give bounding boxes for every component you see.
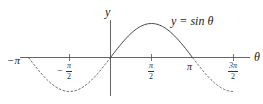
tick-label-neg-pi: −π [7, 55, 20, 66]
x-axis-label: θ [254, 51, 260, 63]
tick-label-neg-half-pi: − π 2 [66, 62, 72, 81]
function-label-text: y = sin θ [171, 14, 213, 28]
tick-label-three-half-pi: 3π 2 [228, 62, 238, 81]
tick-label-pi: π [187, 62, 192, 72]
tick-label-half-pi: π 2 [148, 62, 154, 81]
function-label: y = sin θ [171, 15, 213, 27]
y-axis-label: y [105, 6, 110, 18]
sine-chart [0, 0, 263, 104]
sine-curve-solid [111, 24, 193, 58]
